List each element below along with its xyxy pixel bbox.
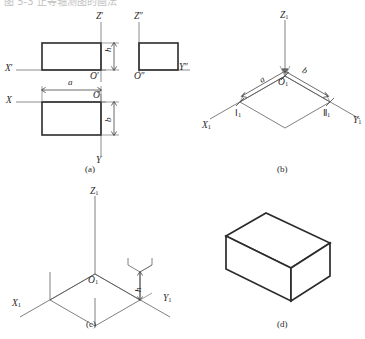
dim-h-ext-bottom [140,293,152,300]
label-o-origin: O [93,91,100,101]
label-y-axis: Y [96,156,101,166]
caption-panel-c: (c) [86,320,96,329]
panel-b: Z1 X1 Y1 O1 a b Ⅰ1 Ⅱ1 [190,8,365,180]
dimension-label-h-front: h [104,48,113,53]
label-o1-c: O1 [88,276,98,286]
dimension-label-b-plan: b [104,118,113,123]
dim-h-ext-top [140,265,152,272]
label-x-prime: X′ [5,64,13,74]
clipped-header-text: 图 5-3 正等轴测图的画法 [4,0,204,7]
figure-root: 图 5-3 正等轴测图的画法 [0,0,365,339]
label-x1: X1 [202,121,211,131]
panel-d [190,186,365,316]
caption-panel-d: (d) [277,320,288,329]
side-view-rectangle [139,43,178,70]
panel-a: X′ Z′ O′ Z″ O″ Y″ X O Y h a b [0,8,190,180]
label-o-prime: O′ [90,72,99,82]
label-y1: Y1 [353,116,362,126]
front-view-rectangle [42,43,101,70]
tick-point-two [326,98,334,106]
top-face-aux [128,258,152,265]
top-view-rectangle [42,102,101,135]
label-z1: Z1 [280,11,289,21]
label-o-double-prime: O″ [134,72,145,82]
label-z1-c: Z1 [90,187,99,197]
label-y-double-prime: Y″ [179,63,188,73]
dimension-label-h-c: h [134,288,143,293]
panel-d-drawing [190,186,365,316]
panel-c: Z1 X1 Y1 O1 h [0,186,190,316]
tick-point-one [236,98,244,106]
label-point-two: Ⅱ1 [323,109,330,119]
label-x1-c: X1 [12,299,21,309]
label-y1-c: Y1 [163,294,172,304]
dimension-label-a-plan: a [68,78,73,87]
label-z-prime: Z′ [96,12,103,22]
caption-panel-a: (a) [85,165,95,174]
panel-b-drawing [190,8,365,180]
label-point-one: Ⅰ1 [235,109,241,119]
label-x-axis: X [6,96,12,106]
label-o1: O1 [278,78,288,88]
label-z-double-prime: Z″ [134,12,143,22]
caption-panel-b: (b) [277,165,288,174]
panel-c-drawing [0,186,190,316]
